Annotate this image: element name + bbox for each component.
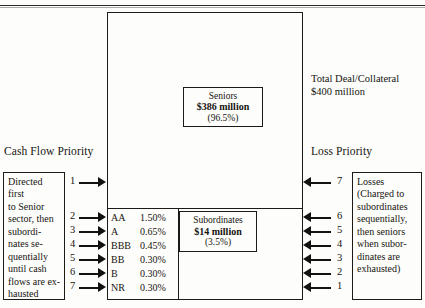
loss-priority-title: Loss Priority [311,145,372,157]
cash-flow-order-number: 5 [70,252,75,263]
loss-order-number: 4 [337,238,342,249]
cash-flow-note-line: to Senior [8,201,61,213]
cash-flow-arrow-tranche: 2 [70,212,107,223]
loss-arrow-tranche: 6 [303,212,352,223]
loss-note-line: sequentially, [357,213,418,225]
cash-flow-note-line: hausted [8,288,61,300]
table-row: B 0.30% [108,266,179,281]
cash-flow-order-number: 6 [70,266,75,277]
table-row: AA 1.50% [108,210,179,225]
seniors-percent: (96.5%) [208,113,239,124]
cash-flow-arrow-senior: 1 [70,177,107,188]
subordinates-percent: (3.5%) [205,237,231,248]
loss-note-line: (Charged to [357,188,418,200]
tranche-percent: 0.30% [140,282,166,293]
cash-flow-order-number: 2 [70,210,75,221]
cash-flow-order-number: 7 [70,280,75,291]
total-deal-annotation: Total Deal/Collateral $400 million [311,72,399,99]
cash-flow-note-line: Directed first [8,176,61,201]
loss-order-number: 5 [337,224,342,235]
tranche-percent: 0.45% [140,240,166,251]
tranche-rating: NR [111,282,125,293]
tranche-percent: 0.30% [140,268,166,279]
loss-note-line: Losses [357,176,418,188]
loss-note-box: Losses (Charged to subordinates sequenti… [352,172,422,300]
cash-flow-order-number: 3 [70,224,75,235]
tranche-table: AA 1.50% A 0.65% BBB 0.45% BB 0.30% B 0.… [108,209,179,299]
total-deal-line2: $400 million [311,85,399,98]
subordinates-box: Subordinates $14 million (3.5%) [179,211,257,252]
cash-flow-note-line: flows are ex- [8,276,61,288]
tranche-rating: A [111,226,118,237]
subordinates-label: Subordinates [193,215,243,226]
loss-order-number: 6 [337,210,342,221]
cash-flow-order-number: 4 [70,238,75,249]
loss-order-number: 1 [337,280,342,291]
cash-flow-arrow-tranche: 4 [70,240,107,251]
loss-order-number: 2 [337,266,342,277]
loss-order-number: 3 [337,252,342,263]
cash-flow-note-line: until cash [8,263,61,275]
tranche-rating: BBB [111,240,131,251]
cash-flow-arrow-tranche: 5 [70,254,107,265]
table-row: BBB 0.45% [108,238,179,253]
seniors-amount: $386 million [197,101,250,112]
seniors-label: Seniors [209,91,238,102]
tranche-rating: AA [111,212,125,223]
tranche-rating: B [111,268,118,279]
subordinates-amount: $14 million [194,226,242,237]
cash-flow-note-line: subordi- [8,226,61,238]
securitization-structure-diagram: Seniors $386 million (96.5%) Subordinate… [0,0,425,308]
cash-flow-arrow-tranche: 6 [70,268,107,279]
table-row: BB 0.30% [108,252,179,267]
loss-note-line: when subor- [357,238,418,250]
loss-arrow-tranche: 2 [303,268,352,279]
loss-note-line: subordinates [357,201,418,213]
tranche-percent: 1.50% [140,212,166,223]
cash-flow-arrow-tranche: 7 [70,282,107,293]
cash-flow-note-line: sector, then [8,213,61,225]
seniors-box: Seniors $386 million (96.5%) [183,87,263,127]
cash-flow-order-number: 1 [70,175,75,186]
loss-arrow-tranche: 4 [303,240,352,251]
tranche-rating: BB [111,254,124,265]
cash-flow-note-line: nates se- [8,238,61,250]
tranche-percent: 0.65% [140,226,166,237]
page-top-rule [0,5,425,6]
loss-note-line: then seniors [357,226,418,238]
loss-arrow-tranche: 3 [303,254,352,265]
cash-flow-note-line: quentially [8,251,61,263]
cash-flow-arrow-tranche: 3 [70,226,107,237]
cash-flow-priority-title: Cash Flow Priority [4,145,93,157]
cash-flow-note-box: Directed first to Senior sector, then su… [3,172,65,300]
page-top-rule-secondary [0,7,425,8]
total-deal-line1: Total Deal/Collateral [311,72,399,85]
loss-arrow-tranche: 1 [303,282,352,293]
table-row: NR 0.30% [108,280,179,295]
table-row: A 0.65% [108,224,179,239]
loss-note-line: dinates are [357,251,418,263]
loss-order-number: 7 [337,175,342,186]
loss-note-line: exhausted) [357,263,418,275]
tranche-percent: 0.30% [140,254,166,265]
loss-arrow-senior: 7 [303,177,352,188]
loss-arrow-tranche: 5 [303,226,352,237]
